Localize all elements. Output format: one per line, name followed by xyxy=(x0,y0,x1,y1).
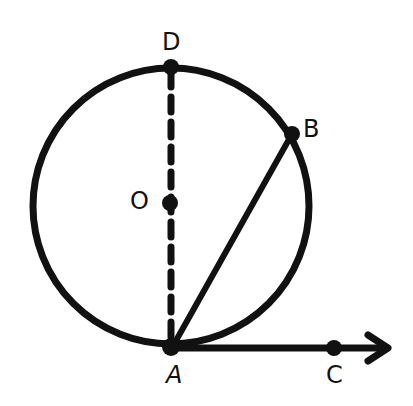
point-C xyxy=(326,340,342,356)
point-D xyxy=(163,59,179,75)
label-O: O xyxy=(130,189,149,213)
point-A xyxy=(162,338,180,356)
point-O xyxy=(162,195,178,211)
geometry-diagram xyxy=(0,0,413,406)
label-C: C xyxy=(326,363,343,387)
label-B: B xyxy=(303,117,319,141)
label-D: D xyxy=(162,30,180,54)
label-A: A xyxy=(166,363,182,387)
point-B xyxy=(284,126,300,142)
chord-AB xyxy=(173,134,292,346)
